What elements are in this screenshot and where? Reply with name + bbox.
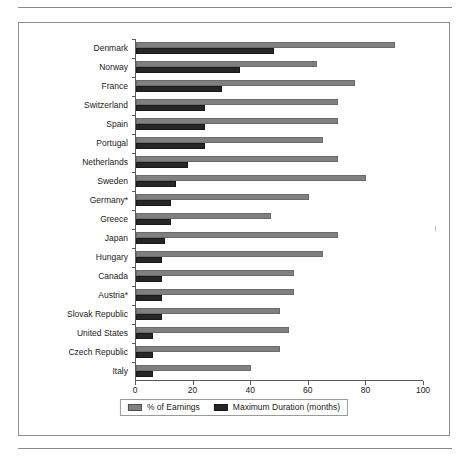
bar-duration [136, 238, 165, 244]
bar-earnings [136, 365, 251, 371]
bar-row: Italy [135, 362, 423, 381]
category-label: United States [77, 329, 128, 338]
category-label: Norway [99, 63, 128, 72]
category-label: Switzerland [84, 101, 128, 110]
y-axis-tick [132, 210, 135, 211]
category-label: Netherlands [82, 158, 128, 167]
y-axis-tick [132, 134, 135, 135]
y-axis-tick [132, 248, 135, 249]
bar-row: Slovak Republic [135, 305, 423, 324]
bar-duration [136, 162, 188, 168]
y-axis-tick [132, 115, 135, 116]
y-axis-tick [132, 153, 135, 154]
bar-duration [136, 314, 162, 320]
bar-earnings [136, 251, 323, 257]
category-label: Austria* [98, 291, 128, 300]
chart-legend: % of Earnings Maximum Duration (months) [120, 399, 348, 416]
category-label: Greece [100, 215, 128, 224]
legend-label-duration: Maximum Duration (months) [233, 403, 340, 412]
x-axis-tick-label: 100 [416, 386, 430, 395]
bar-row: Japan [135, 229, 423, 248]
bar-row: Austria* [135, 286, 423, 305]
y-axis-tick [132, 96, 135, 97]
bar-duration [136, 276, 162, 282]
bar-duration [136, 105, 205, 111]
bar-duration [136, 67, 240, 73]
bar-duration [136, 371, 153, 377]
category-label: Denmark [94, 44, 128, 53]
scan-speck [435, 226, 436, 231]
category-label: Czech Republic [68, 348, 128, 357]
chart-plot-area: DenmarkNorwayFranceSwitzerlandSpainPortu… [135, 39, 423, 381]
bar-row: Switzerland [135, 96, 423, 115]
bar-row: Canada [135, 267, 423, 286]
y-axis-tick [132, 39, 135, 40]
bar-duration [136, 48, 274, 54]
legend-swatch-duration [214, 404, 228, 411]
page-rule-top [18, 7, 452, 8]
bar-duration [136, 200, 171, 206]
bar-rows: DenmarkNorwayFranceSwitzerlandSpainPortu… [135, 39, 423, 381]
bar-earnings [136, 327, 289, 333]
bar-row: United States [135, 324, 423, 343]
y-axis-tick [132, 267, 135, 268]
bar-row: Portugal [135, 134, 423, 153]
y-axis-tick [132, 343, 135, 344]
bar-duration [136, 295, 162, 301]
bar-duration [136, 124, 205, 130]
bar-duration [136, 352, 153, 358]
bar-duration [136, 219, 171, 225]
bar-row: Norway [135, 58, 423, 77]
bar-earnings [136, 232, 338, 238]
legend-entry-duration: Maximum Duration (months) [214, 403, 340, 412]
y-axis-tick [132, 286, 135, 287]
category-label: Slovak Republic [67, 310, 128, 319]
category-label: Germany* [90, 196, 128, 205]
bar-duration [136, 143, 205, 149]
bar-row: France [135, 77, 423, 96]
x-axis-tick-label: 40 [245, 386, 254, 395]
bar-earnings [136, 346, 280, 352]
y-axis-tick [132, 229, 135, 230]
y-axis-tick [132, 362, 135, 363]
y-axis-tick [132, 305, 135, 306]
bar-row: Greece [135, 210, 423, 229]
category-label: Canada [98, 272, 128, 281]
category-label: Japan [105, 234, 128, 243]
category-label: France [102, 82, 128, 91]
y-axis-tick [132, 191, 135, 192]
bar-duration [136, 181, 176, 187]
page-rule-bottom [18, 448, 452, 449]
bar-row: Czech Republic [135, 343, 423, 362]
bar-row: Netherlands [135, 153, 423, 172]
chart-figure-frame: DenmarkNorwayFranceSwitzerlandSpainPortu… [18, 22, 450, 436]
y-axis-tick [132, 58, 135, 59]
bar-duration [136, 86, 222, 92]
bar-duration [136, 333, 153, 339]
bar-row: Germany* [135, 191, 423, 210]
bar-row: Hungary [135, 248, 423, 267]
y-axis-tick [132, 324, 135, 325]
x-axis-tick-label: 20 [188, 386, 197, 395]
y-axis-tick [132, 172, 135, 173]
y-axis-tick [132, 77, 135, 78]
x-axis-tick-label: 60 [303, 386, 312, 395]
category-label: Hungary [96, 253, 128, 262]
category-label: Spain [106, 120, 128, 129]
bar-row: Spain [135, 115, 423, 134]
x-axis-tick-label: 80 [361, 386, 370, 395]
bar-duration [136, 257, 162, 263]
legend-swatch-earnings [128, 404, 142, 411]
legend-label-earnings: % of Earnings [147, 403, 200, 412]
bar-row: Denmark [135, 39, 423, 58]
legend-entry-earnings: % of Earnings [128, 403, 200, 412]
bar-row: Sweden [135, 172, 423, 191]
x-axis-ticks: 020406080100 [135, 381, 423, 399]
x-axis-tick-label: 0 [133, 386, 138, 395]
category-label: Portugal [96, 139, 128, 148]
category-label: Italy [112, 367, 128, 376]
category-label: Sweden [97, 177, 128, 186]
